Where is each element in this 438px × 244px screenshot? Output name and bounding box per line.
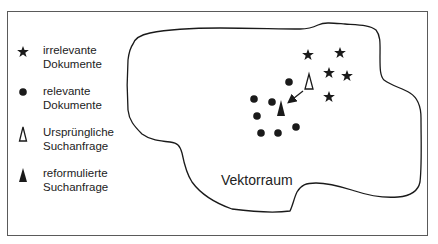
legend-filled-triangle-icon xyxy=(19,168,27,182)
relevant-documents xyxy=(250,78,300,137)
legend-open-triangle-icon xyxy=(20,127,27,141)
legend-item-irrelevant: irrelevante Dokumente xyxy=(43,44,102,71)
legend-label-line2: Dokumente xyxy=(43,99,102,113)
legend-star-icon xyxy=(17,46,29,57)
star-icon xyxy=(341,70,353,81)
vector-space-diagram xyxy=(0,0,438,244)
star-icon xyxy=(323,91,335,102)
dot-icon xyxy=(253,112,261,120)
legend-item-reformulated-query: reformulierte Suchanfrage xyxy=(43,167,108,194)
dot-icon xyxy=(257,129,265,137)
star-icon xyxy=(334,47,346,58)
dot-icon xyxy=(292,123,300,131)
legend-item-original-query: Ursprüngliche Suchanfrage xyxy=(43,126,114,153)
legend-item-relevant: relevante Dokumente xyxy=(43,85,102,112)
dot-icon xyxy=(268,98,276,106)
star-icon xyxy=(302,49,314,60)
legend-label-line1: irrelevante xyxy=(43,44,102,58)
legend-dot-icon xyxy=(19,88,27,96)
reformulation-arrow xyxy=(289,91,303,102)
filled-triangle-icon xyxy=(277,100,285,116)
dot-icon xyxy=(285,78,293,86)
legend-label-line1: reformulierte xyxy=(43,167,108,181)
dot-icon xyxy=(250,95,258,103)
legend-label-line1: relevante xyxy=(43,85,102,99)
open-triangle-icon xyxy=(305,74,313,89)
vector-space-label: Vektorraum xyxy=(221,172,293,188)
star-icon xyxy=(323,67,335,78)
legend-label-line2: Suchanfrage xyxy=(43,140,114,154)
legend-label-line2: Suchanfrage xyxy=(43,181,108,195)
legend-label-line2: Dokumente xyxy=(43,58,102,72)
legend-label-line1: Ursprüngliche xyxy=(43,126,114,140)
dot-icon xyxy=(274,129,282,137)
